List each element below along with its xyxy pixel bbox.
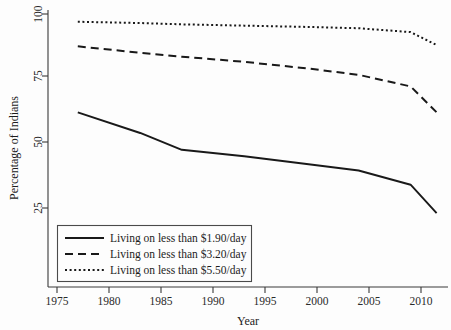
y-tick-label-100: 100 <box>32 5 44 23</box>
legend-label-5-50: Living on less than $5.50/day <box>110 264 247 277</box>
chart-figure: 100 75 50 25 Percentage of Indians 1975 … <box>0 0 451 330</box>
line-chart: 100 75 50 25 Percentage of Indians 1975 … <box>0 0 451 330</box>
legend-label-3-20: Living on less than $3.20/day <box>110 248 247 261</box>
y-tick-label-75: 75 <box>32 70 44 82</box>
x-tick-label-1995: 1995 <box>254 295 277 307</box>
series-line-1-90 <box>78 112 437 213</box>
x-axis-title: Year <box>237 314 259 328</box>
x-tick-label-1990: 1990 <box>202 295 225 307</box>
x-tick-label-1980: 1980 <box>98 295 121 307</box>
x-tick-label-2005: 2005 <box>358 295 381 307</box>
x-tick-label-2010: 2010 <box>410 295 433 307</box>
y-tick-label-25: 25 <box>32 202 44 214</box>
legend: Living on less than $1.90/day Living on … <box>58 226 252 282</box>
x-tick-label-1975: 1975 <box>46 295 69 307</box>
y-tick-label-50: 50 <box>32 136 44 148</box>
series-line-3-20 <box>78 46 437 112</box>
y-axis-title: Percentage of Indians <box>7 96 21 200</box>
x-tick-label-1985: 1985 <box>150 295 173 307</box>
legend-label-1-90: Living on less than $1.90/day <box>110 232 247 245</box>
x-tick-label-2000: 2000 <box>306 295 329 307</box>
series-line-5-50 <box>78 22 437 45</box>
